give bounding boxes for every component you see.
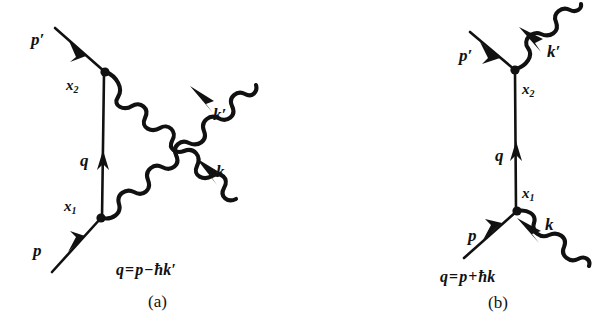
label-x2-a-base: x [66, 77, 74, 93]
line-photon-from-x2-a [106, 72, 236, 200]
label-q-a: q [80, 152, 89, 169]
vertex-x1-dot-a [96, 213, 105, 222]
label-x1-a: x1 [64, 199, 77, 216]
label-k-in-a: k [216, 163, 225, 180]
label-k-out-a: k′ [213, 106, 226, 123]
label-x1-b-subscript: 1 [530, 192, 535, 203]
label-x1-b: x1 [522, 186, 535, 203]
label-p-out-a: p′ [31, 31, 44, 48]
label-x2-a: x2 [66, 78, 79, 95]
equation-a: q=p−ħk′ [116, 261, 176, 279]
arrowhead-photon-kprime-a [190, 86, 214, 113]
label-x2-a-subscript: 2 [74, 84, 79, 95]
line-virtual-electron-b [515, 72, 516, 211]
vertex-x2-dot-a [100, 67, 109, 76]
label-q-b: q [495, 147, 504, 164]
diagram-b-group [464, 4, 589, 266]
equation-b-lhs: q [440, 268, 448, 285]
label-x2-b: x2 [522, 82, 535, 99]
label-x1-a-subscript: 1 [72, 205, 77, 216]
line-incoming-electron-a [52, 218, 101, 272]
equation-b-term2: k [487, 268, 495, 285]
equation-a-equals: = [124, 261, 135, 278]
label-k-out-b: k′ [547, 43, 560, 60]
vertex-x2-dot-b [510, 65, 519, 74]
diagram-a-group [52, 28, 256, 272]
equation-b-hbar: ħ [478, 268, 487, 285]
vertex-x1-dot-b [512, 206, 521, 215]
equation-a-term1: p [135, 261, 143, 278]
label-x2-b-subscript: 2 [530, 88, 535, 99]
line-outgoing-electron-b [470, 32, 515, 70]
arrowhead-incoming-electron-a [68, 231, 85, 252]
arrowhead-outgoing-electron-b [480, 42, 500, 64]
equation-a-operator: − [143, 261, 154, 278]
equation-b-operator: + [467, 268, 478, 285]
label-k-in-b: k [545, 216, 554, 233]
diagram-canvas [0, 0, 615, 323]
caption-b: (b) [488, 293, 508, 313]
arrowhead-photon-kprime-b [519, 27, 543, 52]
label-p-out-b: p′ [459, 47, 472, 64]
equation-b-equals: = [448, 268, 459, 285]
label-p-in-b: p [468, 227, 477, 244]
feynman-figure: p′ x2 q x1 p k′ k q=p−ħk′ (a) p′ k′ x2 q… [0, 0, 615, 323]
arrowhead-photon-k-b [517, 218, 541, 243]
equation-b-term1: p [459, 268, 467, 285]
line-outgoing-electron-a [55, 28, 105, 72]
arrowhead-incoming-electron-b [483, 219, 502, 240]
caption-a: (a) [148, 292, 167, 312]
equation-a-term2: k′ [163, 261, 176, 278]
label-x2-b-base: x [522, 81, 530, 97]
label-x1-b-base: x [522, 185, 530, 201]
equation-b: q=p+ħk [440, 268, 495, 286]
label-x1-a-base: x [64, 198, 72, 214]
equation-a-lhs: q [116, 261, 124, 278]
equation-a-hbar: ħ [154, 261, 163, 278]
label-p-in-a: p [33, 242, 42, 259]
line-virtual-electron-a [102, 74, 104, 218]
